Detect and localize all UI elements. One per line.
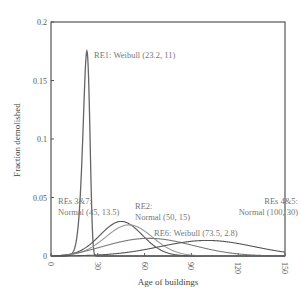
curve-annotation: RE1: Weibull (23.2, 11) xyxy=(94,50,175,60)
x-tick-label: 60 xyxy=(140,262,149,270)
curve-annotation: REs 4&5:Normal (100, 30) xyxy=(239,196,298,217)
x-tick-label: 0 xyxy=(46,262,55,266)
demolition-age-chart: Fraction demolished Age of buildings 00.… xyxy=(0,0,301,302)
y-tick-label: 0.2 xyxy=(37,18,47,27)
y-axis-title: Fraction demolished xyxy=(12,103,22,177)
y-tick-label: 0 xyxy=(43,252,47,261)
curve-annotations: RE1: Weibull (23.2, 11)REs 3&7:Normal (4… xyxy=(58,50,298,238)
curve-annotation: REs 3&7:Normal (45, 13.5) xyxy=(58,196,120,217)
y-tick-label: 0.05 xyxy=(33,194,47,203)
curve-re1 xyxy=(51,51,285,256)
x-tick-label: 150 xyxy=(280,262,289,274)
x-tick-label: 90 xyxy=(186,262,195,270)
y-tick-label: 0.1 xyxy=(37,135,47,144)
curve-annotation: RE2:Normal (50, 15) xyxy=(135,201,190,222)
curve-annotation: RE6: Weibull (73.5, 2.8) xyxy=(154,228,238,238)
distribution-curves xyxy=(51,51,285,256)
y-tick-label: 0.15 xyxy=(33,77,47,86)
x-tick-label: 30 xyxy=(93,262,102,270)
x-tick-label: 120 xyxy=(233,262,242,274)
svg-text:Fraction demolished: Fraction demolished xyxy=(12,103,22,177)
x-axis-title: Age of buildings xyxy=(138,277,199,287)
